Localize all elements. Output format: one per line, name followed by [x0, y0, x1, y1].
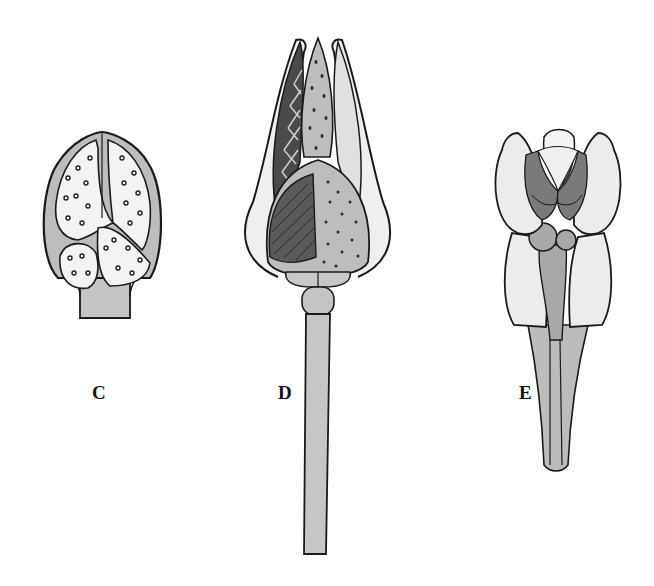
figure-d — [238, 32, 398, 562]
figure-c-drawing — [38, 128, 168, 323]
figure-c — [38, 128, 168, 323]
figure-e-drawing — [488, 125, 628, 475]
figure-d-label: D — [278, 382, 292, 404]
figure-e-label: E — [519, 382, 532, 404]
illustration-canvas: C — [0, 0, 654, 586]
figure-c-label: C — [92, 382, 106, 404]
figure-d-drawing — [238, 32, 398, 562]
figure-e — [488, 125, 628, 475]
